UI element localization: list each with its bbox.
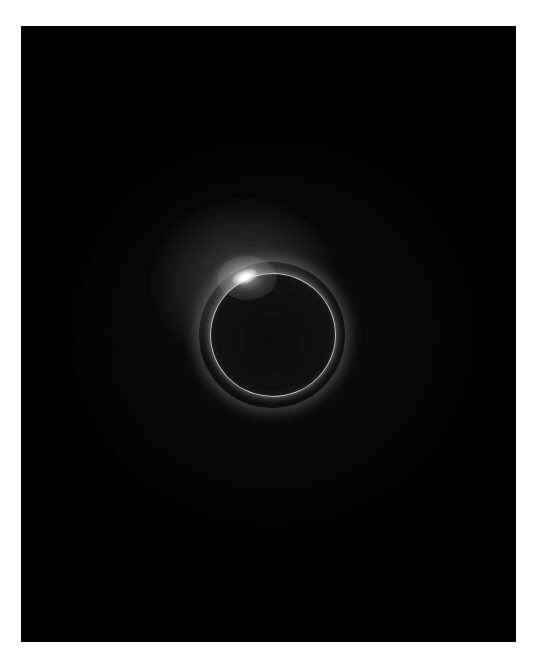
eclipse-photo (21, 26, 516, 642)
